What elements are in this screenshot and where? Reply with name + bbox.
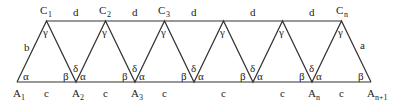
- bottom-segment-label: c: [44, 87, 49, 99]
- triangle-strip-diagram: C 1 C 2 C 3 C n d d d d d b a γ γ γ γ γ …: [0, 0, 411, 105]
- top-segment-label: d: [250, 6, 256, 18]
- top-vertex-label-cn: C n: [336, 4, 348, 19]
- svg-text:A: A: [308, 87, 316, 99]
- angle-gamma: γ: [337, 26, 343, 38]
- bottom-segment-label: c: [162, 87, 167, 99]
- bottom-segment-label: c: [339, 87, 344, 99]
- angle-beta: β: [358, 70, 364, 82]
- angle-beta: β: [240, 70, 246, 82]
- angle-alpha: α: [198, 70, 204, 82]
- svg-text:3: 3: [166, 10, 170, 19]
- left-side-label: b: [24, 41, 30, 53]
- angle-beta: β: [299, 70, 305, 82]
- svg-text:1: 1: [21, 93, 25, 102]
- svg-text:3: 3: [139, 93, 143, 102]
- svg-text:A: A: [131, 87, 139, 99]
- svg-text:n: n: [344, 10, 348, 19]
- bottom-segment-label: c: [221, 87, 226, 99]
- angle-alpha: α: [316, 70, 322, 82]
- svg-text:C: C: [158, 4, 165, 16]
- svg-text:n: n: [316, 93, 320, 102]
- right-side-label: a: [360, 39, 365, 51]
- angle-gamma: γ: [160, 26, 166, 38]
- top-vertex-label-c1: C 1: [40, 4, 52, 19]
- top-segment-label: d: [309, 6, 315, 18]
- angle-gamma: γ: [101, 26, 107, 38]
- bottom-vertex-label-an1: A n+1: [367, 87, 388, 102]
- top-segment-label: d: [191, 6, 197, 18]
- bottom-segment-label: c: [280, 87, 285, 99]
- svg-text:1: 1: [48, 10, 52, 19]
- angle-delta: δ: [73, 62, 78, 74]
- svg-text:2: 2: [107, 10, 111, 19]
- bottom-vertex-label-a1: A 1: [13, 87, 25, 102]
- top-vertex-label-c2: C 2: [99, 4, 111, 19]
- top-vertex-label-c3: C 3: [158, 4, 170, 19]
- svg-text:A: A: [13, 87, 21, 99]
- angle-beta: β: [181, 70, 187, 82]
- bottom-vertex-label-a3: A 3: [131, 87, 143, 102]
- svg-text:A: A: [367, 87, 375, 99]
- angle-gamma: γ: [219, 26, 225, 38]
- angle-delta: δ: [191, 62, 196, 74]
- angle-delta: δ: [250, 62, 255, 74]
- bottom-vertex-label-an: A n: [308, 87, 320, 102]
- angle-beta: β: [122, 70, 128, 82]
- svg-text:n+1: n+1: [375, 93, 388, 102]
- angle-alpha: α: [139, 70, 145, 82]
- svg-text:2: 2: [80, 93, 84, 102]
- svg-text:C: C: [99, 4, 106, 16]
- angle-alpha: α: [80, 70, 86, 82]
- angle-alpha: α: [23, 70, 29, 82]
- angle-delta: δ: [309, 62, 314, 74]
- angle-alpha: α: [257, 70, 263, 82]
- angle-gamma: γ: [278, 26, 284, 38]
- angle-beta: β: [63, 70, 69, 82]
- bottom-vertex-label-a2: A 2: [72, 87, 84, 102]
- angle-delta: δ: [132, 62, 137, 74]
- top-segment-label: d: [132, 6, 138, 18]
- svg-text:C: C: [40, 4, 47, 16]
- angle-gamma: γ: [42, 26, 48, 38]
- top-segment-label: d: [73, 6, 79, 18]
- svg-text:C: C: [336, 4, 343, 16]
- svg-text:A: A: [72, 87, 80, 99]
- bottom-segment-label: c: [103, 87, 108, 99]
